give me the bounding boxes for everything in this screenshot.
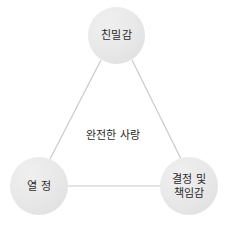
node-passion-label: 열 정 [27,180,51,193]
center-label: 완전한 사랑 [0,126,226,142]
node-commitment: 결정 및 책임감 [160,157,218,215]
node-intimacy-label: 친밀감 [101,29,132,42]
edge-intimacy-commitment [132,60,182,161]
triangular-love-diagram: 친밀감 열 정 결정 및 책임감 완전한 사랑 [0,0,226,226]
node-passion: 열 정 [10,157,68,215]
node-intimacy: 친밀감 [88,7,145,64]
edge-intimacy-passion [49,60,101,161]
node-commitment-label: 결정 및 책임감 [172,172,206,200]
